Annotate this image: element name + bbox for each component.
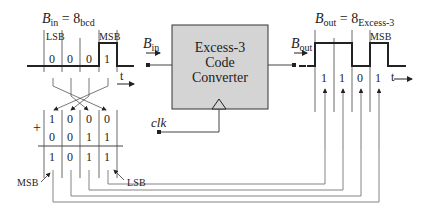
plus-operator: + [33,121,41,135]
output-title-var: B [315,11,324,26]
row2-bit-2: 1 [86,131,92,143]
result-msb-label: MSB [17,178,39,188]
result-bit-1: 0 [67,151,73,163]
output-bit-3: 1 [375,72,381,84]
output-title-code: Excess-3 [358,17,394,28]
clk-terminal [157,130,161,134]
output-title-eq: = 8 [336,11,358,26]
result-bit-0: 1 [49,151,55,163]
converter-line-1: Excess-3 [172,40,268,55]
output-arrow-var: B [291,36,300,51]
output-bit-2: 0 [357,72,363,84]
input-title-var: B [42,11,51,26]
result-bit-2: 1 [86,151,92,163]
input-arrow-sub: in [152,42,160,53]
result-bit-3: 1 [104,151,110,163]
converter-label: Excess-3 Code Converter [172,40,268,85]
output-time-label: t [391,71,394,83]
row2-bit-3: 1 [104,131,110,143]
bit-reversal-lines [53,78,108,110]
input-title: Bin = 8bcd [42,12,95,28]
output-title-sub: out [324,17,337,28]
input-lsb-label: LSB [46,32,65,42]
input-bit-1: 0 [67,53,73,65]
output-waveform [307,30,412,150]
input-bit-0: 0 [49,53,55,65]
output-title: Bout = 8Excess-3 [315,12,394,28]
input-terminal [146,63,150,67]
output-arrow-sub: out [300,42,313,53]
input-bit-2: 0 [86,53,92,65]
input-arrow-var: B [143,36,152,51]
output-msb-label: MSB [370,32,392,42]
input-title-eq: = 8 [58,11,80,26]
input-title-code: bcd [80,17,94,28]
input-time-label: t [120,70,124,82]
converter-line-2: Code [172,55,268,70]
result-lsb-label: LSB [127,178,146,188]
row1-bit-3: 0 [104,113,110,125]
output-arrow-label: Bout [291,37,312,53]
output-bit-0: 1 [321,72,327,84]
input-msb-label: MSB [99,32,121,42]
input-arrow-label: Bin [143,37,159,53]
row2-bit-0: 0 [49,131,55,143]
converter-line-3: Converter [172,70,268,85]
row1-bit-0: 1 [49,113,55,125]
clk-label: clk [151,116,166,129]
row2-bit-1: 0 [67,131,73,143]
input-bit-3: 1 [104,53,110,65]
output-bit-1: 1 [339,72,345,84]
row1-bit-1: 0 [67,113,73,125]
output-terminal [292,63,296,67]
result-routing-lines [53,150,379,202]
row1-bit-2: 0 [86,113,92,125]
